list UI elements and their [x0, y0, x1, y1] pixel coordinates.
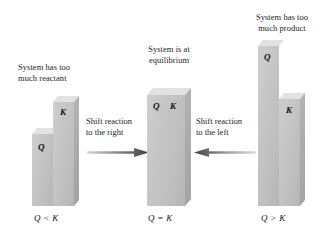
bar-k-right: K: [279, 93, 305, 206]
bottom-label-middle: Q = K: [148, 213, 173, 223]
bar-qk-middle-top-face: [147, 88, 191, 95]
caption-middle: System is at equilibrium: [126, 44, 212, 65]
bar-k-left: K: [53, 96, 79, 206]
caption-left: System has too much reactant: [18, 62, 114, 83]
bar-qk-middle-side-face: [185, 88, 191, 206]
bar-k-right-front-face: [279, 99, 300, 206]
bar-qk-middle: Q K: [147, 88, 191, 206]
bar-q-left-label: Q: [38, 142, 45, 152]
bar-k-middle-label: K: [170, 101, 176, 111]
bottom-label-left: Q < K: [34, 213, 59, 223]
bar-q-right-front-face: [258, 46, 279, 206]
caption-right: System has too much product: [236, 12, 328, 33]
bar-k-right-label: K: [286, 105, 292, 115]
bar-q-right-label: Q: [264, 52, 271, 62]
bar-k-left-front-face: [53, 102, 74, 206]
equilibrium-diagram: System has too much reactant Q K Q < K S…: [0, 0, 329, 246]
bar-qk-middle-front-face: [147, 95, 185, 206]
bar-k-right-side-face: [300, 93, 305, 206]
bar-k-left-side-face: [74, 96, 79, 206]
bar-q-middle-label: Q: [153, 101, 160, 111]
bottom-label-right: Q > K: [261, 213, 286, 223]
arrow-right-icon: [87, 148, 149, 157]
bar-k-left-label: K: [60, 107, 66, 117]
arrow-left-icon: [194, 148, 256, 157]
